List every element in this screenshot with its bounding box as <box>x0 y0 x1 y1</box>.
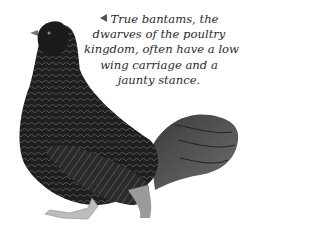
caption-line-4: wing carriage and a <box>84 58 234 73</box>
left-triangle-icon <box>100 14 107 22</box>
caption-line-3: kingdom, often have a low <box>84 42 234 57</box>
caption-text: True bantams, the <box>111 12 219 26</box>
caption-line-5: jaunty stance. <box>84 73 234 88</box>
caption-line-1: True bantams, the <box>84 12 234 27</box>
caption: True bantams, the dwarves of the poultry… <box>84 12 234 88</box>
caption-line-2: dwarves of the poultry <box>84 27 234 42</box>
